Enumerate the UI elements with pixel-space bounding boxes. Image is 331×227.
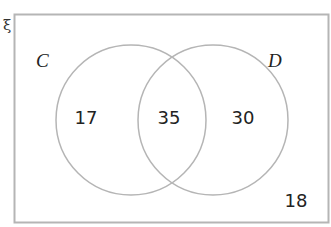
set-d-label: D: [267, 50, 282, 71]
outside-count: 18: [285, 190, 308, 211]
set-c-label: C: [36, 50, 49, 71]
d-only-count: 30: [232, 107, 255, 128]
intersection-count: 35: [158, 107, 181, 128]
c-only-count: 17: [75, 107, 98, 128]
venn-diagram: ξ C D 17 35 30 18: [0, 0, 331, 227]
universal-set-symbol: ξ: [3, 16, 11, 34]
